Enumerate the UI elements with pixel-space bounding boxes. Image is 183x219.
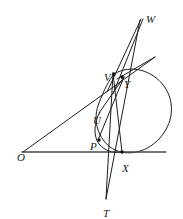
- figure-canvas: [0, 0, 183, 219]
- point-marker-p: [97, 138, 100, 141]
- point-marker-x: [120, 150, 123, 153]
- line-O-V-tangent: [23, 57, 155, 152]
- point-marker-v: [112, 72, 115, 75]
- point-label-w: W: [146, 14, 155, 25]
- point-label-o: O: [17, 152, 25, 163]
- point-label-x: X: [122, 163, 129, 174]
- point-label-y: Y: [124, 79, 130, 90]
- point-label-v: V: [104, 72, 111, 83]
- point-label-u: U: [93, 115, 101, 126]
- point-label-p: P: [90, 141, 97, 152]
- point-label-t: T: [103, 208, 109, 219]
- geometry-figure: OWVYUPXT: [0, 0, 183, 219]
- segments-group: [22, 19, 166, 199]
